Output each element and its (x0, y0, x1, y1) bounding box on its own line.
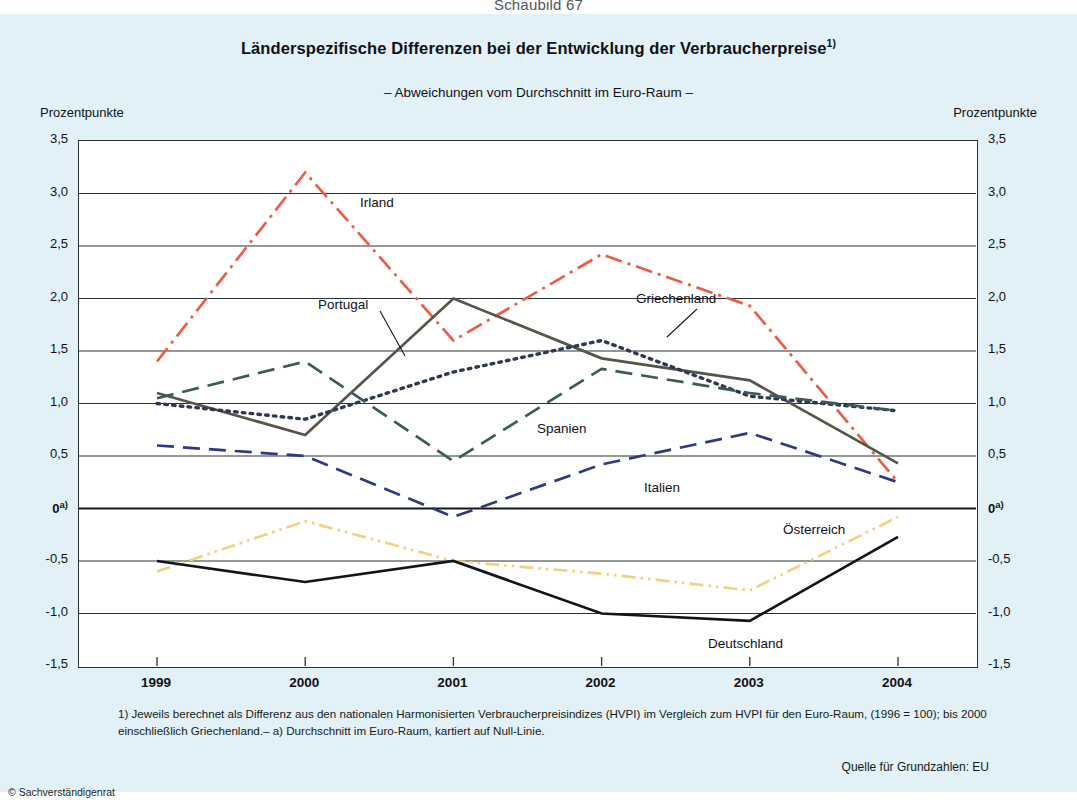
series-label-sterreich: Österreich (783, 522, 845, 537)
series-label-italien: Italien (644, 480, 680, 495)
series-label-spanien: Spanien (537, 421, 587, 436)
series-label-irland: Irland (360, 195, 394, 210)
x-axis-tick-label: 2002 (561, 675, 641, 690)
zero-footnote-marker: a) (60, 499, 68, 510)
y-axis-tick-label: 3,0 (8, 184, 68, 199)
y-axis-tick-label: 1,0 (8, 394, 68, 409)
zero-footnote-marker: a) (995, 499, 1003, 510)
y-axis-tick-label: 1,5 (988, 341, 1048, 356)
y-axis-tick-label: -1,0 (988, 604, 1048, 619)
label-leader-line (667, 309, 697, 337)
x-axis-tick-label: 2004 (857, 675, 937, 690)
y-axis-tick-label: 1,5 (8, 341, 68, 356)
y-axis-tick-label: 2,5 (8, 236, 68, 251)
y-axis-tick-label: 3,5 (988, 131, 1048, 146)
x-axis-tick-label: 2001 (412, 675, 492, 690)
label-leader-line (380, 311, 405, 356)
plot-area (78, 140, 978, 668)
y-axis-tick-label: -0,5 (988, 551, 1048, 566)
series-line-italien (157, 433, 898, 517)
y-axis-tick-label: 0,5 (988, 446, 1048, 461)
x-axis-tick-label: 1999 (116, 675, 196, 690)
figure-number: Schaubild 67 (0, 0, 1077, 13)
y-axis-unit-left: Prozentpunkte (40, 105, 124, 120)
y-axis-tick-label: -1,5 (8, 656, 68, 671)
title-footnote-marker: 1) (827, 37, 837, 49)
y-axis-tick-label: 2,0 (988, 289, 1048, 304)
y-axis-tick-label: 1,0 (988, 394, 1048, 409)
chart-canvas (79, 141, 976, 666)
page-title: Länderspezifische Differenzen bei der En… (0, 37, 1077, 58)
y-axis-tick-label: -0,5 (8, 551, 68, 566)
y-axis-tick-label: 0,5 (8, 446, 68, 461)
y-axis-tick-label: 0a) (988, 499, 1048, 516)
y-axis-tick-label: 3,0 (988, 184, 1048, 199)
chart-subtitle: – Abweichungen vom Durchschnitt im Euro-… (0, 85, 1077, 100)
chart-page: Schaubild 67 Länderspezifische Differenz… (0, 0, 1077, 807)
y-axis-tick-label: 2,0 (8, 289, 68, 304)
series-line-portugal (157, 299, 898, 464)
chart-title-text: Länderspezifische Differenzen bei der En… (241, 39, 827, 57)
x-axis-tick-label: 2003 (709, 675, 789, 690)
y-tick-zero: 0 (52, 501, 59, 516)
y-axis-tick-label: 0a) (8, 499, 68, 516)
footnote: 1) Jeweils berechnet als Differenz aus d… (118, 706, 988, 740)
y-axis-tick-label: 2,5 (988, 236, 1048, 251)
y-axis-unit-right: Prozentpunkte (953, 105, 1037, 120)
series-label-griechenland: Griechenland (636, 291, 716, 306)
series-label-deutschland: Deutschland (708, 636, 783, 651)
x-axis-tick-label: 2000 (264, 675, 344, 690)
series-line-deutschland (157, 537, 898, 621)
source-note: Quelle für Grundzahlen: EU (842, 760, 989, 774)
y-axis-tick-label: 3,5 (8, 131, 68, 146)
y-axis-tick-label: -1,5 (988, 656, 1048, 671)
y-axis-tick-label: -1,0 (8, 604, 68, 619)
series-line-griechenland (157, 341, 898, 420)
copyright-note: © Sachverständigenrat (8, 786, 115, 798)
series-label-portugal: Portugal (318, 297, 368, 312)
